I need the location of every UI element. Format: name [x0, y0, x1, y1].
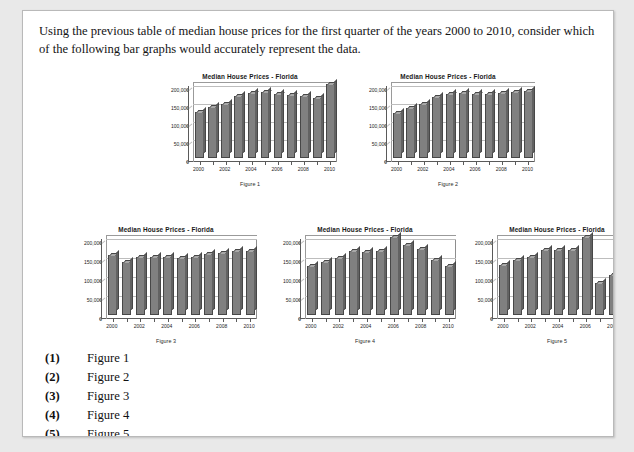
- plot-back-wall-top: [305, 235, 456, 236]
- x-axis-label: 2006: [580, 323, 591, 329]
- bar: [326, 84, 335, 158]
- answer-option-1[interactable]: (1)Figure 1: [45, 351, 129, 370]
- chart-plot-area: 050,000100,000150,000200,000200020022004…: [70, 235, 262, 331]
- x-axis-tick-mark: [168, 319, 169, 322]
- bar: [431, 260, 440, 315]
- gridline-depth: [102, 240, 106, 243]
- y-axis-tick-mark: [99, 319, 102, 320]
- y-axis-tick-mark: [384, 162, 387, 163]
- gridline: [391, 86, 535, 87]
- bar: [195, 112, 204, 158]
- x-axis-label: 2008: [415, 323, 426, 329]
- bar: [432, 97, 441, 158]
- bar: [524, 91, 533, 158]
- bar: [554, 250, 563, 315]
- answer-number: (3): [45, 389, 87, 404]
- figure-caption: Figure 1: [158, 181, 342, 187]
- gridline-depth: [387, 105, 391, 108]
- x-axis-tick-mark: [304, 162, 305, 165]
- x-axis-tick-mark: [518, 319, 519, 322]
- x-axis-tick-mark: [504, 319, 505, 322]
- x-axis-tick-mark: [113, 319, 114, 322]
- y-axis-label: 150,000: [71, 259, 102, 265]
- answer-label: Figure 3: [87, 389, 129, 404]
- question-prompt: Using the previous table of median house…: [39, 23, 599, 59]
- bar: [568, 250, 577, 315]
- y-axis-label: 200,000: [159, 87, 189, 93]
- x-axis-label: 2000: [305, 323, 316, 329]
- x-axis-tick-mark: [209, 319, 210, 322]
- x-axis-tick-mark: [252, 162, 253, 165]
- y-axis-label: 100,000: [71, 278, 102, 284]
- figure-2: Median House Prices - Florida050,000100,…: [356, 73, 540, 187]
- bar: [218, 253, 227, 315]
- bar: [403, 245, 412, 315]
- x-axis-label: 2008: [298, 166, 309, 172]
- y-axis-tick-mark: [99, 242, 102, 243]
- figure-caption: Figure 2: [356, 181, 540, 187]
- bar: [307, 266, 316, 315]
- plot-frame: [101, 239, 256, 319]
- gridline-depth: [493, 240, 497, 243]
- x-axis-tick-mark: [489, 162, 490, 165]
- x-axis-tick-mark: [437, 162, 438, 165]
- bar: [609, 275, 614, 315]
- answer-label: Figure 5: [87, 427, 129, 437]
- figure-caption: Figure 5: [461, 338, 614, 344]
- gridline: [497, 239, 614, 240]
- figure-5: Median House Prices - Florida050,000100,…: [461, 226, 614, 344]
- bar: [393, 113, 402, 158]
- x-axis-tick-mark: [312, 319, 313, 322]
- y-axis-label: 50,000: [357, 141, 387, 147]
- x-axis-tick-mark: [353, 319, 354, 322]
- bar: [177, 258, 186, 315]
- y-axis-tick-mark: [298, 261, 301, 262]
- bar: [191, 257, 200, 315]
- plot-back-wall-top: [391, 82, 535, 83]
- answer-option-2[interactable]: (2)Figure 2: [45, 370, 129, 389]
- answer-option-3[interactable]: (3)Figure 3: [45, 389, 129, 408]
- answer-option-4[interactable]: (4)Figure 4: [45, 408, 129, 427]
- x-axis-tick-mark: [317, 162, 318, 165]
- y-axis-label: 100,000: [357, 123, 387, 129]
- y-axis-label: 150,000: [462, 259, 493, 265]
- gridline-depth: [493, 259, 497, 262]
- x-axis-tick-mark: [449, 319, 450, 322]
- bar: [499, 265, 508, 315]
- y-axis-tick-mark: [490, 299, 493, 300]
- answer-number: (4): [45, 408, 87, 423]
- figure-3: Median House Prices - Florida050,000100,…: [70, 226, 262, 344]
- bar: [232, 251, 241, 315]
- bar: [362, 252, 371, 315]
- bar: [248, 93, 257, 158]
- figure-caption: Figure 4: [269, 338, 461, 344]
- x-axis-label: 2000: [391, 166, 402, 172]
- x-axis-tick-mark: [154, 319, 155, 322]
- x-axis-label: 2004: [360, 323, 371, 329]
- gridline-depth: [189, 87, 193, 90]
- y-axis-tick-mark: [99, 261, 102, 262]
- bar: [472, 94, 481, 158]
- x-axis-tick-mark: [531, 319, 532, 322]
- bar: [417, 249, 426, 315]
- bar: [300, 96, 309, 158]
- y-axis-tick-mark: [490, 280, 493, 281]
- bar: [498, 93, 507, 158]
- x-axis-tick-mark: [559, 319, 560, 322]
- gridline-depth: [493, 278, 497, 281]
- gridline-depth: [301, 278, 305, 281]
- answer-number: (2): [45, 370, 87, 385]
- x-axis-tick-mark: [398, 162, 399, 165]
- x-axis-tick-mark: [239, 162, 240, 165]
- gridline-depth: [387, 141, 391, 144]
- bar: [221, 104, 230, 158]
- gridline: [193, 86, 337, 87]
- answer-option-5[interactable]: (5)Figure 5: [45, 427, 129, 437]
- answer-number: (1): [45, 351, 87, 366]
- bar: [527, 257, 536, 315]
- bar: [335, 258, 344, 315]
- x-axis-label: 2002: [333, 323, 344, 329]
- x-axis-label: 2010: [443, 323, 454, 329]
- y-axis-tick-mark: [186, 162, 189, 163]
- x-axis-tick-mark: [463, 162, 464, 165]
